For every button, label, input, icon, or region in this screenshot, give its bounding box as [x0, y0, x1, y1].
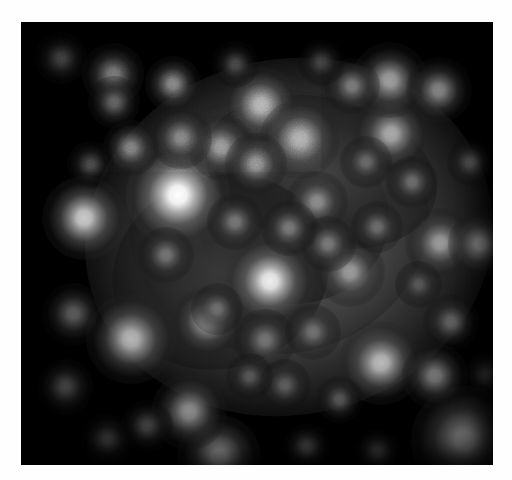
star-source-38: [37, 359, 93, 415]
star-source-23: [150, 107, 211, 168]
star-source-36: [423, 294, 479, 350]
star-source-24: [103, 120, 159, 176]
star-source-10: [172, 287, 243, 358]
star-source-53: [298, 39, 345, 86]
star-source-26: [300, 216, 356, 272]
star-source-15: [406, 57, 472, 123]
cluster-halo-1: [112, 70, 446, 373]
vignette-overlay: [21, 22, 493, 465]
cluster-halo-2: [197, 132, 389, 304]
star-source-31: [285, 304, 341, 360]
star-source-43: [226, 353, 273, 400]
star-source-47: [447, 139, 494, 186]
star-source-49: [354, 429, 401, 466]
star-source-7: [223, 67, 298, 142]
star-source-25: [324, 58, 380, 114]
star-source-30: [234, 309, 295, 370]
star-source-17: [225, 133, 286, 194]
star-source-2: [411, 386, 493, 465]
star-source-1: [225, 236, 314, 325]
star-source-20: [448, 211, 493, 277]
star-source-28: [207, 194, 263, 250]
star-source-33: [351, 201, 403, 253]
star-source-9: [353, 96, 428, 171]
star-source-12: [151, 374, 226, 449]
star-source-21: [82, 43, 143, 104]
star-source-50: [464, 351, 494, 398]
star-source-52: [212, 41, 259, 88]
star-source-37: [42, 283, 103, 344]
star-source-41: [259, 359, 311, 411]
cluster-halo-4: [85, 144, 357, 400]
star-source-29: [138, 227, 194, 283]
star-source-19: [402, 343, 468, 409]
star-source-45: [121, 400, 173, 452]
star-source-46: [81, 414, 133, 465]
star-source-16: [188, 114, 254, 180]
star-source-35: [340, 136, 392, 188]
star-source-8: [260, 99, 340, 179]
frame-edge-fade: [21, 22, 493, 465]
star-source-44: [395, 261, 442, 308]
star-source-34: [386, 156, 438, 208]
cluster-halo-0: [51, 22, 493, 454]
cluster-halo-3: [189, 72, 454, 273]
star-source-40: [35, 32, 87, 84]
star-source-0: [126, 143, 229, 246]
star-source-27: [261, 200, 317, 256]
star-source-13: [405, 208, 476, 279]
film-grain-overlay: [21, 22, 321, 172]
star-source-22: [145, 56, 201, 112]
star-source-51: [67, 141, 114, 188]
star-source-6: [86, 294, 175, 383]
star-source-18: [286, 171, 347, 232]
star-source-4: [177, 415, 262, 465]
star-source-32: [191, 283, 243, 335]
star-source-42: [316, 376, 363, 423]
star-source-14: [315, 237, 386, 308]
image-canvas: [0, 0, 512, 480]
astronomical-image-frame: [21, 22, 493, 465]
star-source-48: [283, 424, 330, 466]
star-source-11: [352, 42, 427, 117]
star-source-3: [42, 176, 127, 261]
star-source-5: [339, 321, 424, 406]
star-source-39: [88, 76, 140, 128]
